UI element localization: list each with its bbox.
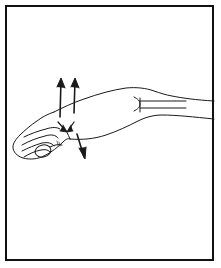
- down-arrow-lower: [77, 134, 86, 159]
- hand-back-contour: [13, 135, 44, 159]
- down-arrow-wrist-left: [58, 122, 67, 132]
- anatomical-line-drawing: [0, 0, 221, 268]
- up-arrow-right: [71, 78, 79, 113]
- figure-frame: Line drawing of a right forearm and hand…: [0, 0, 221, 268]
- down-arrow-wrist-right: [67, 122, 74, 132]
- up-arrow-left: [57, 78, 65, 117]
- forearm-top-contour: [54, 88, 214, 112]
- forearm-bottom-contour: [70, 115, 214, 139]
- elbow-marking-bracket: [134, 97, 140, 111]
